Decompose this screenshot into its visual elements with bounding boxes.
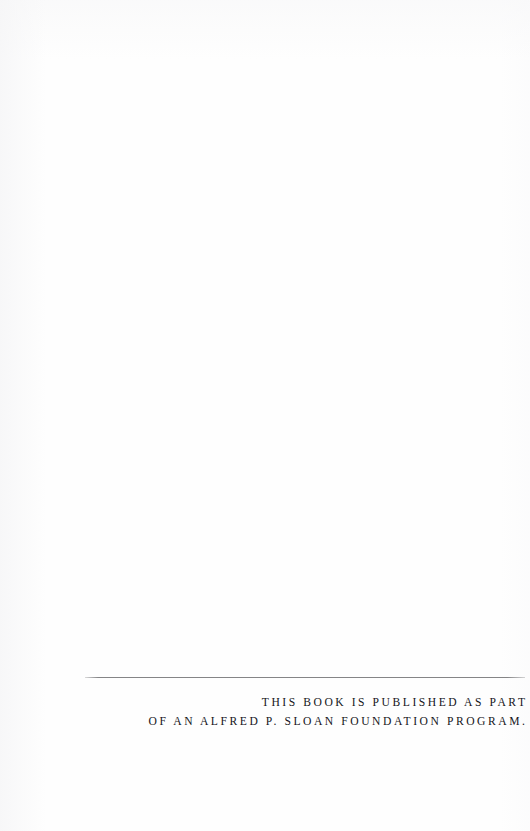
book-page: THIS BOOK IS PUBLISHED AS PART OF AN ALF… — [0, 0, 530, 831]
colophon-line-1: THIS BOOK IS PUBLISHED AS PART — [85, 694, 528, 713]
colophon-line-2: OF AN ALFRED P. SLOAN FOUNDATION PROGRAM… — [85, 713, 528, 732]
horizontal-rule — [85, 677, 525, 678]
page-blank-area — [0, 0, 530, 668]
colophon-statement: THIS BOOK IS PUBLISHED AS PART OF AN ALF… — [85, 694, 525, 731]
colophon-block: THIS BOOK IS PUBLISHED AS PART OF AN ALF… — [85, 668, 525, 731]
